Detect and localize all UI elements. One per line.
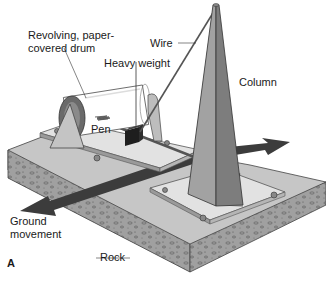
label-ground-movement: Ground movement xyxy=(10,215,61,241)
label-heavy-weight: Heavy weight xyxy=(104,57,170,70)
label-rock: Rock xyxy=(100,251,125,264)
panel-letter: A xyxy=(7,257,15,269)
label-drum: Revolving, paper- covered drum xyxy=(28,29,114,55)
label-column: Column xyxy=(239,76,277,89)
label-wire: Wire xyxy=(150,37,173,50)
column xyxy=(188,4,243,208)
label-pen: Pen xyxy=(91,123,111,136)
